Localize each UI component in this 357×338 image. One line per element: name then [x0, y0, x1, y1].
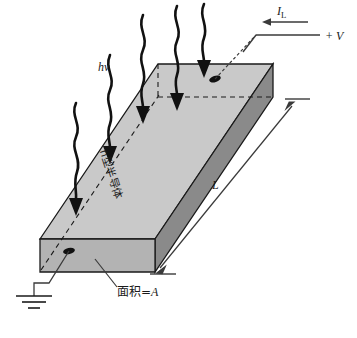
area-symbol: A: [151, 285, 158, 299]
bias-voltage-label: + V: [325, 29, 343, 44]
bar-front-face: [40, 239, 155, 272]
ground-icon: [16, 296, 52, 308]
photocurrent-subscript: L: [281, 10, 286, 20]
photoconductor-diagram: [0, 0, 357, 338]
photon-arrow-5: [202, 4, 205, 62]
photon-energy-nu: ν: [104, 60, 109, 74]
bias-wire-kink: [243, 35, 256, 52]
photocurrent-label: IL: [277, 4, 286, 20]
photon-energy-label: hν: [98, 60, 109, 75]
area-label: 面积=A: [117, 282, 158, 300]
area-text: 面积=: [117, 285, 151, 299]
length-label: L: [212, 178, 219, 193]
